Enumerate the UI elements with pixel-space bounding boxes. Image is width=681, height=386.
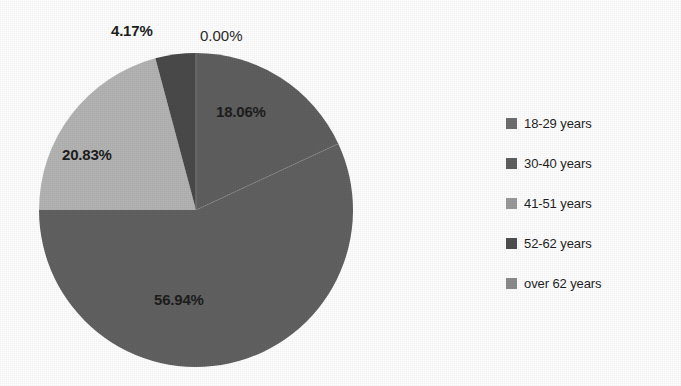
legend-swatch-icon	[506, 118, 517, 129]
pie-label-41-51-years: 56.94%	[154, 291, 204, 308]
legend-item-over-62-years[interactable]: over 62 years	[506, 272, 676, 294]
pie-graphic	[0, 0, 420, 386]
legend-swatch-icon	[506, 238, 517, 249]
legend-item-18-29-years[interactable]: 18-29 years	[506, 112, 676, 134]
legend-item-30-40-years[interactable]: 30-40 years	[506, 152, 676, 174]
chart-legend: 18-29 years 30-40 years 41-51 years 52-6…	[506, 112, 676, 312]
legend-label: 30-40 years	[524, 156, 592, 171]
legend-swatch-icon	[506, 198, 517, 209]
legend-label: over 62 years	[524, 276, 601, 291]
pie-label-52-62-years: 20.83%	[62, 146, 112, 163]
legend-item-41-51-years[interactable]: 41-51 years	[506, 192, 676, 214]
legend-item-52-62-years[interactable]: 52-62 years	[506, 232, 676, 254]
pie-label-30-40-years: 18.06%	[216, 103, 266, 120]
legend-label: 41-51 years	[524, 196, 592, 211]
legend-swatch-icon	[506, 158, 517, 169]
legend-swatch-icon	[506, 278, 517, 289]
pie-label-over-62-years: 4.17%	[111, 22, 153, 39]
pie-label-18-29-years: 0.00%	[200, 27, 243, 44]
legend-label: 18-29 years	[524, 116, 592, 131]
pie-chart-figure: 0.00% 4.17% 18.06% 56.94% 20.83% 18-29 y…	[0, 0, 681, 386]
legend-label: 52-62 years	[524, 236, 592, 251]
pie-plot-area: 0.00% 4.17% 18.06% 56.94% 20.83%	[0, 0, 420, 386]
